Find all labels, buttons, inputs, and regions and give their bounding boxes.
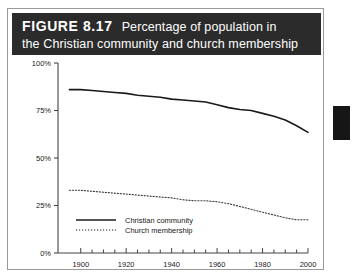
legend-label-2: Church membership — [125, 226, 193, 235]
svg-text:25%: 25% — [36, 201, 51, 210]
svg-text:2000: 2000 — [300, 260, 317, 269]
svg-text:1980: 1980 — [254, 260, 271, 269]
data-series — [69, 90, 308, 220]
svg-text:100%: 100% — [32, 59, 52, 68]
svg-text:0%: 0% — [40, 249, 51, 258]
line-chart: 0%25%50%75%100% 190019201940196019802000… — [8, 9, 325, 271]
x-axis-tick-labels: 190019201940196019802000 — [72, 260, 316, 269]
svg-text:1900: 1900 — [72, 260, 89, 269]
svg-text:75%: 75% — [36, 106, 51, 115]
svg-text:50%: 50% — [36, 154, 51, 163]
y-axis-tick-labels: 0%25%50%75%100% — [32, 59, 52, 258]
page-edge-tab — [333, 106, 350, 140]
svg-text:1920: 1920 — [118, 260, 135, 269]
chart-legend: Christian communityChurch membership — [76, 216, 193, 235]
legend-label-1: Christian community — [125, 216, 193, 225]
figure-frame: FIGURE 8.17Percentage of population in t… — [7, 8, 324, 270]
svg-text:1940: 1940 — [163, 260, 180, 269]
svg-text:1960: 1960 — [209, 260, 226, 269]
